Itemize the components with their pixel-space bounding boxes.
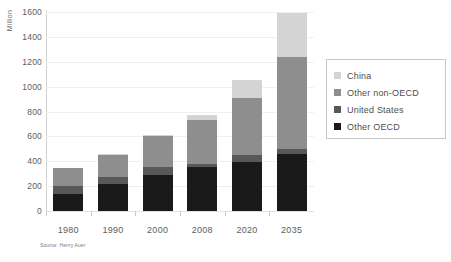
bar-2035 xyxy=(277,13,307,211)
y-axis-tick-label: 1200 xyxy=(2,57,42,67)
legend-swatch-icon xyxy=(334,106,341,113)
bar-1980 xyxy=(53,168,83,211)
y-axis-tick-label: 400 xyxy=(2,156,42,166)
x-axis-tick-mark xyxy=(269,211,270,216)
y-axis-tick-label: 0 xyxy=(2,206,42,216)
legend-swatch-icon xyxy=(334,72,341,79)
bar-segment xyxy=(53,168,83,186)
bar-2020 xyxy=(232,80,262,211)
x-axis-tick-mark xyxy=(91,211,92,216)
bar-segment xyxy=(232,80,262,97)
y-axis-tick-label: 200 xyxy=(2,181,42,191)
x-axis-tick-label: 1990 xyxy=(89,225,137,235)
legend-item-label: United States xyxy=(347,105,404,115)
y-axis-tick-label: 1600 xyxy=(2,7,42,17)
x-axis-tick-mark xyxy=(225,211,226,216)
bar-segment xyxy=(277,57,307,149)
bar-segment xyxy=(143,175,173,211)
bar-segment xyxy=(187,167,217,211)
bar-segment xyxy=(232,155,262,162)
bar-segment xyxy=(143,136,173,166)
x-axis-tick-mark xyxy=(135,211,136,216)
bar-segment xyxy=(53,194,83,211)
gridline xyxy=(46,87,314,88)
gridline xyxy=(46,136,314,137)
gridline xyxy=(46,12,314,13)
y-axis-tick-label: 1000 xyxy=(2,82,42,92)
y-axis-tick-label: 800 xyxy=(2,107,42,117)
bar-segment xyxy=(232,162,262,211)
bar-segment xyxy=(98,155,128,177)
legend-item[interactable]: Other OECD xyxy=(334,118,445,135)
plot-area xyxy=(46,12,314,211)
y-axis-tick-labels: 02004006008001000120014001600 xyxy=(0,0,42,262)
legend-item[interactable]: China xyxy=(334,67,445,84)
x-axis-tick-mark xyxy=(46,211,47,216)
bar-segment xyxy=(143,167,173,175)
y-axis-tick-label: 1400 xyxy=(2,32,42,42)
gridline xyxy=(46,62,314,63)
bar-segment xyxy=(277,13,307,57)
x-axis-tick-label: 2035 xyxy=(268,225,316,235)
bar-segment xyxy=(232,98,262,155)
stacked-bar-chart: Million 02004006008001000120014001600 19… xyxy=(0,0,451,262)
x-axis-tick-label: 2008 xyxy=(178,225,226,235)
gridline xyxy=(46,161,314,162)
bar-1990 xyxy=(98,154,128,211)
x-axis-tick-label: 2000 xyxy=(134,225,182,235)
chart-legend: ChinaOther non-OECDUnited StatesOther OE… xyxy=(326,59,446,139)
legend-item[interactable]: Other non-OECD xyxy=(334,84,445,101)
x-axis-tick-label: 1980 xyxy=(44,225,92,235)
bar-2000 xyxy=(143,135,173,211)
bar-segment xyxy=(277,154,307,211)
bar-segment xyxy=(98,177,128,184)
bar-segment xyxy=(98,184,128,211)
legend-swatch-icon xyxy=(334,123,341,130)
x-axis-tick-mark xyxy=(180,211,181,216)
gridline xyxy=(46,37,314,38)
legend-item-label: China xyxy=(347,71,372,81)
legend-item-label: Other OECD xyxy=(347,122,400,132)
gridline xyxy=(46,186,314,187)
bar-segment xyxy=(53,186,83,193)
legend-item-label: Other non-OECD xyxy=(347,88,419,98)
legend-swatch-icon xyxy=(334,89,341,96)
y-axis-tick-label: 600 xyxy=(2,131,42,141)
bar-segment xyxy=(187,120,217,164)
gridline xyxy=(46,112,314,113)
legend-item[interactable]: United States xyxy=(334,101,445,118)
x-axis-tick-label: 2020 xyxy=(223,225,271,235)
bar-2008 xyxy=(187,115,217,211)
source-note: Source: Henry Auer xyxy=(40,242,85,248)
